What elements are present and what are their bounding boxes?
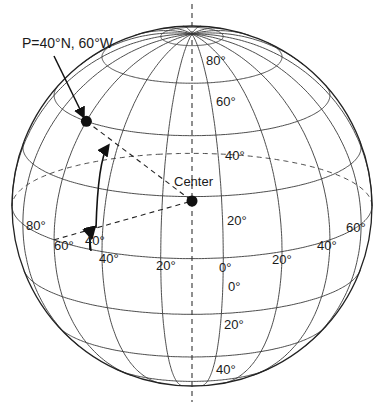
lon-label-20w: 20° — [156, 258, 176, 273]
globe-svg: P=40°N, 60°W Center 40° 80° 60° 40° 20° … — [0, 0, 384, 403]
lon-label-20e: 20° — [272, 252, 292, 267]
lon-label-0: 0° — [219, 260, 231, 275]
lat-label-0: 0° — [228, 279, 240, 294]
globe-diagram: P=40°N, 60°W Center 40° 80° 60° 40° 20° … — [0, 0, 384, 403]
lon-label-60e: 60° — [346, 220, 366, 235]
lat-label-40-south: 40° — [216, 362, 236, 377]
lat-label-40: 40° — [225, 148, 245, 163]
point-label: P=40°N, 60°W — [22, 35, 114, 51]
lat-label-20: 20° — [227, 213, 247, 228]
lat-label-20-south: 20° — [224, 317, 244, 332]
lat-label-80: 80° — [206, 53, 226, 68]
angle-label: 40° — [85, 233, 105, 248]
meridian--60 — [54, 34, 192, 376]
lat-label-60: 60° — [216, 94, 236, 109]
meridian-40 — [192, 34, 330, 376]
meridian-0 — [192, 34, 223, 386]
lon-label-80w: 80° — [26, 218, 46, 233]
lon-label-40e: 40° — [317, 238, 337, 253]
point-p-dot — [81, 116, 92, 127]
lon-label-60w: 60° — [54, 238, 74, 253]
angle-arrow-up-icon — [96, 146, 108, 228]
center-label: Center — [174, 174, 214, 189]
meridian--40 — [102, 34, 192, 383]
meridian--20 — [161, 34, 192, 386]
lon-label-40w: 40° — [99, 251, 119, 266]
center-dot — [187, 196, 198, 207]
parallel-0-hidden — [12, 154, 161, 206]
radius-to-equator — [54, 201, 192, 240]
meridian--100 — [12, 34, 192, 206]
